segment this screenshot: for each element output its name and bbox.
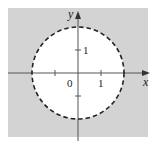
y-axis-label: y	[67, 7, 74, 21]
y-tick-label: 1	[83, 44, 89, 56]
origin-label: 0	[67, 77, 73, 89]
x-axis-label: x	[142, 75, 149, 89]
x-tick-label: 1	[98, 77, 104, 89]
region-diagram: y x 0 1 1	[0, 0, 153, 147]
